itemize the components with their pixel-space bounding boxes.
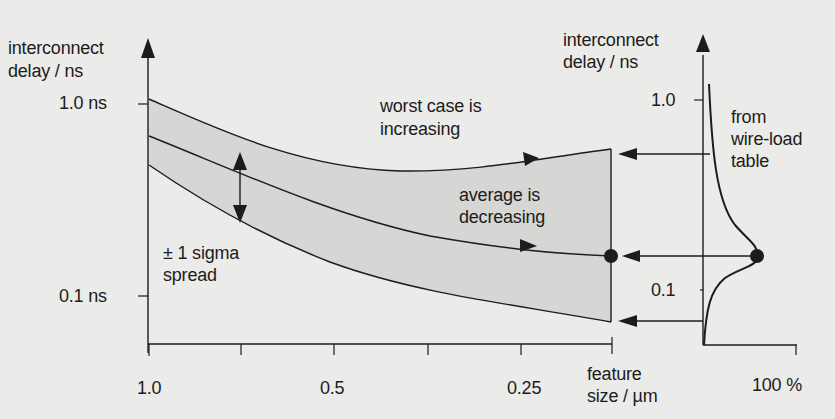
x-tick-0-25: 0.25 xyxy=(507,378,541,399)
sigma-label-2: spread xyxy=(163,265,217,286)
wire-delay-diagram xyxy=(0,0,835,419)
right-tick-top-label: 1.0 xyxy=(651,90,675,111)
right-axis-label-2: delay / ns xyxy=(563,52,638,73)
wire-load-label-1: from xyxy=(731,107,766,128)
average-label-2: decreasing xyxy=(459,207,545,228)
x-tick-0-5: 0.5 xyxy=(320,378,344,399)
right-x-label: 100 % xyxy=(752,375,802,396)
x-tick-1-0: 1.0 xyxy=(137,378,161,399)
x-axis-label-2: size / µm xyxy=(587,386,658,407)
wire-load-label-3: table xyxy=(731,151,769,172)
best-connector-arrow-icon xyxy=(618,315,637,327)
worst-case-label-1: worst case is xyxy=(380,96,481,117)
right-axis-label-1: interconnect xyxy=(563,30,659,51)
sigma-label-1: ± 1 sigma xyxy=(163,243,239,264)
left-axis-label-2: delay / ns xyxy=(8,61,83,82)
left-axis-arrow-icon xyxy=(141,38,155,58)
wire-load-label-2: wire-load xyxy=(731,129,802,150)
average-connector-arrow-icon xyxy=(622,250,640,262)
x-axis-label-1: feature xyxy=(587,364,642,385)
left-tick-bottom-label: 0.1 ns xyxy=(59,286,107,307)
worst-connector-arrow-icon xyxy=(618,148,637,160)
left-tick-top-label: 1.0 ns xyxy=(59,93,107,114)
average-label-1: average is xyxy=(459,185,540,206)
distribution-peak-dot xyxy=(750,249,764,263)
average-dot xyxy=(604,249,618,263)
right-tick-bottom-label: 0.1 xyxy=(651,280,675,301)
left-axis-label-1: interconnect xyxy=(8,38,104,59)
right-axis-arrow-icon xyxy=(696,34,710,52)
worst-case-label-2: increasing xyxy=(380,119,460,140)
